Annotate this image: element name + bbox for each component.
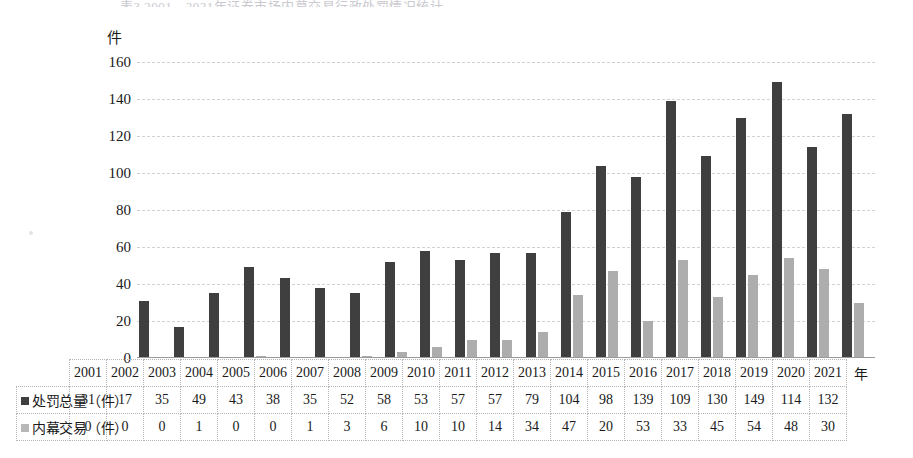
bar-group bbox=[488, 62, 523, 358]
table-cell: 38 bbox=[255, 387, 292, 414]
table-year-header: 2007 bbox=[292, 360, 329, 387]
table-cell: 53 bbox=[625, 414, 662, 441]
table-year-header: 2011 bbox=[440, 360, 477, 387]
table-cell: 33 bbox=[662, 414, 699, 441]
bar-group bbox=[805, 62, 840, 358]
table-year-header: 2006 bbox=[255, 360, 292, 387]
bar-group bbox=[770, 62, 805, 358]
table-cell: 35 bbox=[292, 387, 329, 414]
bar bbox=[526, 253, 536, 358]
bar bbox=[608, 271, 618, 358]
table-header-row: 2001200220032004200520062007200820092010… bbox=[17, 360, 876, 387]
bar bbox=[420, 251, 430, 358]
table-pad-cell bbox=[847, 414, 876, 441]
y-axis-unit-label: 件 bbox=[107, 31, 122, 46]
y-tick-label: 20 bbox=[89, 314, 131, 329]
bar bbox=[573, 295, 583, 358]
table-cell: 114 bbox=[773, 387, 810, 414]
faint-top-caption: 表3 2001—2021年证券市场内幕交易行政处罚情况统计 bbox=[120, 0, 740, 7]
table-cell: 57 bbox=[440, 387, 477, 414]
bar bbox=[772, 82, 782, 358]
legend-swatch-icon bbox=[21, 424, 29, 432]
table-cell: 109 bbox=[662, 387, 699, 414]
bar bbox=[280, 278, 290, 358]
bar bbox=[174, 327, 184, 358]
bar bbox=[666, 101, 676, 358]
bar-group bbox=[453, 62, 488, 358]
table-cell: 139 bbox=[625, 387, 662, 414]
table-cell: 6 bbox=[366, 414, 403, 441]
bar-group bbox=[172, 62, 207, 358]
bar-group bbox=[278, 62, 313, 358]
table-cell: 45 bbox=[699, 414, 736, 441]
x-axis-label: 年 bbox=[847, 360, 876, 387]
table-cell: 49 bbox=[181, 387, 218, 414]
table-cell: 0 bbox=[255, 414, 292, 441]
y-tick-label: 40 bbox=[89, 277, 131, 292]
table-year-header: 2015 bbox=[588, 360, 625, 387]
bar bbox=[631, 177, 641, 358]
table-cell: 1 bbox=[181, 414, 218, 441]
table-year-header: 2001 bbox=[70, 360, 107, 387]
table-row-header: 内幕交易（件） bbox=[17, 414, 70, 441]
table-row-header: 处罚总量（件） bbox=[17, 387, 70, 414]
x-axis-baseline bbox=[137, 357, 875, 358]
table-cell: 14 bbox=[477, 414, 514, 441]
bar bbox=[502, 340, 512, 359]
bar-group bbox=[594, 62, 629, 358]
bar bbox=[819, 269, 829, 358]
table-year-header: 2008 bbox=[329, 360, 366, 387]
bar bbox=[209, 293, 219, 358]
table-row: 处罚总量（件）311735494338355258535757791049813… bbox=[17, 387, 876, 414]
series-label: 内幕交易（件） bbox=[32, 421, 128, 436]
bar bbox=[561, 212, 571, 358]
table-cell: 10 bbox=[440, 414, 477, 441]
bar-group bbox=[207, 62, 242, 358]
bar bbox=[643, 321, 653, 358]
table-cell: 54 bbox=[736, 414, 773, 441]
table-year-header: 2004 bbox=[181, 360, 218, 387]
bar-group bbox=[137, 62, 172, 358]
y-axis-tick-labels: 160140120100806040200 bbox=[89, 62, 131, 358]
bar-group bbox=[699, 62, 734, 358]
table-cell: 3 bbox=[329, 414, 366, 441]
scan-artifact-speck bbox=[29, 231, 33, 235]
table-year-header: 2019 bbox=[736, 360, 773, 387]
y-tick-label: 80 bbox=[89, 203, 131, 218]
table-cell: 52 bbox=[329, 387, 366, 414]
table-year-header: 2010 bbox=[403, 360, 440, 387]
bar bbox=[538, 332, 548, 358]
y-tick-label: 120 bbox=[89, 129, 131, 144]
bar bbox=[455, 260, 465, 358]
table-cell: 20 bbox=[588, 414, 625, 441]
bar bbox=[842, 114, 852, 358]
bar-group bbox=[734, 62, 769, 358]
table-cell: 1 bbox=[292, 414, 329, 441]
bar bbox=[784, 258, 794, 358]
bar-group bbox=[383, 62, 418, 358]
y-tick-label: 140 bbox=[89, 92, 131, 107]
bar-group bbox=[629, 62, 664, 358]
legend-swatch-icon bbox=[21, 397, 29, 405]
table-year-header: 2003 bbox=[144, 360, 181, 387]
bar bbox=[854, 303, 864, 359]
table-year-header: 2014 bbox=[551, 360, 588, 387]
table-year-header: 2021 bbox=[810, 360, 847, 387]
table-cell: 10 bbox=[403, 414, 440, 441]
y-tick-label: 60 bbox=[89, 240, 131, 255]
bar bbox=[350, 293, 360, 358]
bar bbox=[244, 267, 254, 358]
table-cell: 35 bbox=[144, 387, 181, 414]
bar bbox=[701, 156, 711, 358]
bar bbox=[385, 262, 395, 358]
table-year-header: 2020 bbox=[773, 360, 810, 387]
data-table-wrapper: 2001200220032004200520062007200820092010… bbox=[16, 359, 876, 441]
table-year-header: 2016 bbox=[625, 360, 662, 387]
table-cell: 0 bbox=[218, 414, 255, 441]
table-year-header: 2012 bbox=[477, 360, 514, 387]
bar-group bbox=[559, 62, 594, 358]
table-cell: 47 bbox=[551, 414, 588, 441]
data-table: 2001200220032004200520062007200820092010… bbox=[16, 359, 876, 441]
bar-group bbox=[313, 62, 348, 358]
table-cell: 149 bbox=[736, 387, 773, 414]
